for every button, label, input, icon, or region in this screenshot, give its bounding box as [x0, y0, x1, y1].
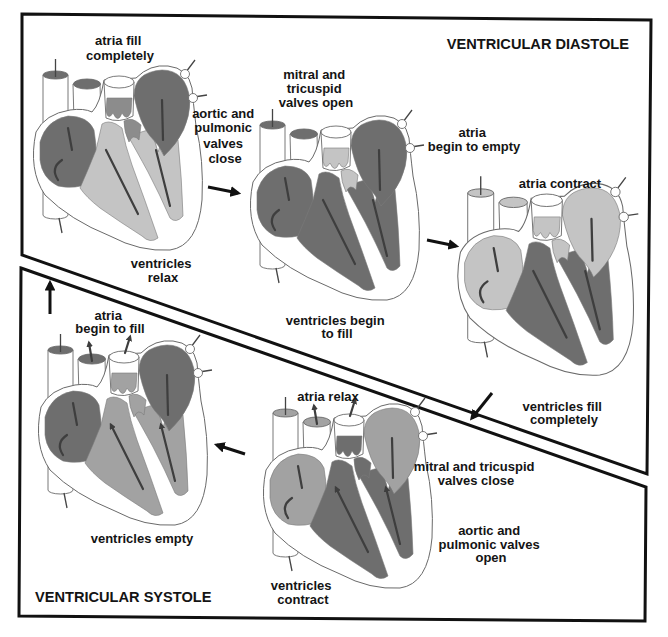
cardiac-cycle-diagram: VENTRICULAR DIASTOLE VENTRICULAR SYSTOLE… — [0, 0, 668, 637]
vena-cava-bottom-tick — [276, 268, 279, 283]
diastole-title: VENTRICULAR DIASTOLE — [447, 36, 629, 52]
label-mitral-tricuspid-valves-close: mitral and tricuspid valves close — [414, 459, 538, 488]
aorta-opening — [104, 76, 134, 88]
pulmonary-artery-opening — [74, 79, 101, 89]
label-atria-begin-to-fill: atria begin to fill — [75, 308, 144, 336]
pulmonary-artery-opening — [291, 129, 318, 139]
left-atrium-flow — [379, 150, 380, 190]
label-atria-fill-completely: atria fill completely — [86, 33, 155, 63]
label-atria-begin-to-empty: atria begin to empty — [428, 125, 521, 154]
pulmonary-vein-lower — [419, 432, 428, 441]
heart-atria-contract — [458, 176, 639, 375]
label-aortic-pulmonic-valves-close: aortic and pulmonic valves close — [192, 106, 258, 166]
pulmonary-vein-upper — [181, 70, 190, 79]
aortic-outflow-arrow — [125, 337, 130, 353]
vena-cava-bottom-tick — [59, 218, 62, 233]
pulmonary-vein-lower — [406, 144, 415, 153]
pulmonary-vein-lower — [189, 94, 198, 103]
aorta-opening — [321, 126, 351, 138]
heart-ventricles-empty — [38, 334, 212, 525]
systole-title: VENTRICULAR SYSTOLE — [35, 589, 212, 605]
heart-valves-open — [250, 109, 424, 300]
label-ventricles-fill-completely: ventricles fill completely — [522, 399, 605, 427]
pulmonary-artery-opening — [499, 197, 527, 207]
left-atrium-flow — [162, 100, 163, 140]
left-atrium-flow — [591, 219, 592, 261]
heart-atria-fill-completely — [33, 59, 207, 250]
pulmonary-vein-lower — [619, 212, 628, 221]
semilunar-valve — [336, 436, 362, 457]
arrow-down-left-icon — [472, 393, 492, 418]
left-atrium-flow — [167, 375, 168, 415]
pulmonary-vein-upper — [398, 120, 407, 129]
semilunar-valve — [106, 98, 132, 119]
semilunar-valve — [533, 217, 560, 238]
pulmonary-vein-lower — [194, 369, 203, 378]
aorta-opening — [531, 194, 562, 206]
arrow-right-icon — [208, 187, 238, 193]
label-atria-relax: atria relax — [297, 389, 359, 404]
vena-cava-bottom-tick — [289, 556, 292, 571]
left-atrium-flow — [392, 438, 393, 478]
label-ventricles-empty: ventricles empty — [91, 531, 194, 546]
label-atria-contract: atria contract — [519, 176, 602, 191]
pulmonary-vein-upper — [611, 187, 620, 196]
arrow-right-icon — [427, 240, 456, 246]
pulmonary-vein-upper — [186, 345, 195, 354]
heart-atria-relax — [263, 397, 437, 588]
semilunar-valve — [111, 373, 137, 394]
vena-cava-bottom-tick — [484, 342, 487, 358]
label-ventricles-relax: ventricles relax — [131, 256, 195, 285]
label-mitral-tricuspid-valves-open: mitral and tricuspid valves open — [279, 67, 353, 110]
label-ventricles-begin-to-fill: ventricles begin to fill — [286, 313, 389, 341]
semilunar-valve — [323, 148, 349, 169]
pulmonary-vein-upper — [411, 408, 420, 417]
vena-cava-bottom-tick — [64, 493, 67, 508]
label-ventricles-contract: ventricles contract — [271, 578, 335, 607]
arrow-left-icon — [217, 445, 245, 454]
label-aortic-pulmonic-valves-open: aortic and pulmonic valves open — [439, 523, 544, 565]
